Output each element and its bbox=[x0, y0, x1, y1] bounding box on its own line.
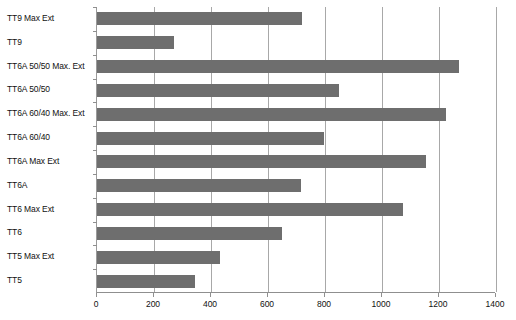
gridline bbox=[154, 7, 155, 292]
x-axis-tick-label: 400 bbox=[203, 299, 217, 309]
category-label: TT6A 60/40 Max. Ext bbox=[7, 109, 96, 118]
gridline bbox=[211, 7, 212, 292]
category-label: TT6 Max Ext bbox=[7, 205, 96, 214]
y-axis-tick bbox=[93, 7, 97, 8]
x-axis-tick-label: 1400 bbox=[486, 299, 505, 309]
gridline bbox=[268, 7, 269, 292]
category-label: TT6A bbox=[7, 181, 96, 190]
x-axis-tick bbox=[153, 293, 154, 297]
x-axis-tick-label: 1200 bbox=[429, 299, 448, 309]
y-axis-tick bbox=[93, 174, 97, 175]
x-axis-tick-label: 1000 bbox=[372, 299, 391, 309]
y-axis-tick bbox=[93, 150, 97, 151]
x-axis-tick bbox=[210, 293, 211, 297]
x-axis-tick-label: 200 bbox=[146, 299, 160, 309]
category-label: TT9 bbox=[7, 38, 96, 47]
bar bbox=[97, 60, 459, 73]
chart-title bbox=[0, 0, 516, 3]
x-axis-tick bbox=[96, 293, 97, 297]
x-axis-tick bbox=[324, 293, 325, 297]
x-axis-tick bbox=[495, 293, 496, 297]
category-label: TT6A Max Ext bbox=[7, 157, 96, 166]
gridline bbox=[496, 7, 497, 292]
bar bbox=[97, 227, 282, 240]
category-label: TT6 bbox=[7, 228, 96, 237]
y-axis-tick bbox=[93, 269, 97, 270]
category-label: TT6A 50/50 bbox=[7, 85, 96, 94]
bar-chart: TT9 Max ExtTT9TT6A 50/50 Max. ExtTT6A 50… bbox=[0, 0, 516, 320]
category-label: TT9 Max Ext bbox=[7, 14, 96, 23]
bar bbox=[97, 251, 220, 264]
gridline bbox=[325, 7, 326, 292]
bar bbox=[97, 275, 195, 288]
y-axis-tick bbox=[93, 245, 97, 246]
gridline bbox=[382, 7, 383, 292]
y-axis-tick bbox=[93, 55, 97, 56]
y-axis-tick bbox=[93, 126, 97, 127]
bar bbox=[97, 12, 302, 25]
category-label: TT5 bbox=[7, 276, 96, 285]
y-axis-tick bbox=[93, 31, 97, 32]
x-axis-tick bbox=[267, 293, 268, 297]
y-axis-tick bbox=[93, 79, 97, 80]
x-axis-tick-label: 0 bbox=[94, 299, 99, 309]
bar bbox=[97, 179, 301, 192]
y-axis-tick bbox=[93, 198, 97, 199]
bar bbox=[97, 203, 403, 216]
category-label: TT5 Max Ext bbox=[7, 252, 96, 261]
x-axis: 0200400600800100012001400 bbox=[96, 293, 495, 320]
category-axis: TT9 Max ExtTT9TT6A 50/50 Max. ExtTT6A 50… bbox=[0, 7, 96, 293]
x-axis-tick bbox=[438, 293, 439, 297]
category-label: TT6A 60/40 bbox=[7, 133, 96, 142]
y-axis-tick bbox=[93, 102, 97, 103]
bar bbox=[97, 155, 426, 168]
category-label: TT6A 50/50 Max. Ext bbox=[7, 62, 96, 71]
plot-area bbox=[96, 7, 495, 293]
gridline bbox=[439, 7, 440, 292]
x-axis-tick-label: 600 bbox=[260, 299, 274, 309]
x-axis-tick-label: 800 bbox=[317, 299, 331, 309]
bar bbox=[97, 132, 324, 145]
bar bbox=[97, 108, 446, 121]
x-axis-tick bbox=[381, 293, 382, 297]
y-axis-tick bbox=[93, 222, 97, 223]
bar bbox=[97, 36, 174, 49]
bar bbox=[97, 84, 339, 97]
